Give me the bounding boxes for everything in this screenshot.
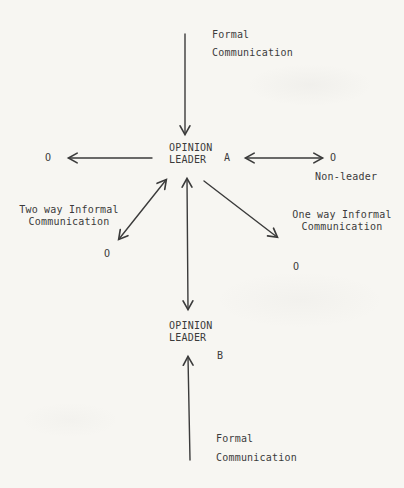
one-way-informal-arrow [204, 181, 277, 237]
formal-communication-top-label-line1: Formal [212, 29, 249, 41]
one-way-informal-label-line1: One way Informal [292, 209, 392, 220]
formal-communication-bottom-label-line2: Communication [216, 452, 297, 464]
two-way-informal-arrow [119, 180, 166, 239]
opinion-leader-a-node: OPINIONLEADER [169, 142, 213, 166]
one-way-informal-label-line2: Communication [302, 221, 383, 232]
one-way-informal-label: One way InformalCommunication [291, 209, 393, 233]
opinion-leader-a-b-vertical-arrow [187, 179, 188, 309]
two-way-informal-label: Two way InformalCommunication [18, 204, 120, 228]
non-leader-label: Non-leader [315, 171, 377, 183]
opinion-leader-b-node: OPINIONLEADER [169, 320, 213, 344]
diagram-page: Formal Communication OPINIONLEADER A O O… [0, 0, 404, 488]
formal-communication-bottom-label-line1: Formal [216, 433, 253, 445]
two-way-informal-label-line1: Two way Informal [19, 204, 119, 215]
opinion-leader-a-line2: LEADER [169, 154, 206, 165]
opinion-leader-b-line2: LEADER [169, 332, 206, 343]
right-other-node: O [330, 152, 336, 164]
opinion-leader-b-line1: OPINION [169, 320, 213, 331]
two-way-informal-label-line2: Communication [29, 216, 110, 227]
bottom-right-other-node: O [293, 261, 299, 273]
formal-communication-top-label-line2: Communication [212, 47, 293, 59]
opinion-leader-a-line1: OPINION [169, 142, 213, 153]
node-a-label: A [224, 152, 230, 164]
left-other-node: O [45, 152, 51, 164]
bottom-left-other-node: O [104, 248, 110, 260]
formal-communication-arrow-bottom [188, 357, 190, 460]
node-b-label: B [217, 350, 223, 362]
arrows-layer [0, 0, 404, 488]
